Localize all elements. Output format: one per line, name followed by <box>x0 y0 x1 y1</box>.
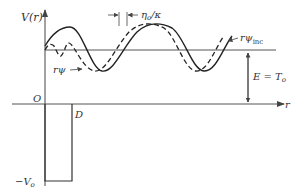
r-axis-label: r <box>285 99 291 110</box>
inside-wave-pointer <box>70 69 82 70</box>
inside-wave-label: rψ <box>53 64 66 75</box>
well-edge-label: D <box>74 109 83 120</box>
wave-dashed <box>45 24 224 71</box>
wave-solid <box>45 24 232 71</box>
well-depth-label: −Vo <box>15 176 35 189</box>
diagram-canvas: V(r) r O D −Vo E = To ηo/κ rψ rψinc <box>0 0 292 191</box>
y-axis-label: V(r) <box>21 11 43 24</box>
potential-well <box>45 104 72 181</box>
origin-label: O <box>33 93 41 104</box>
shift-label: ηo/κ <box>141 9 162 22</box>
incident-wave-label: rψinc <box>240 32 263 46</box>
energy-label: E = To <box>252 71 286 84</box>
